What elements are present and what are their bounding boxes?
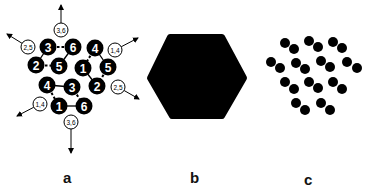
svg-text:3,6: 3,6: [56, 27, 65, 34]
dimer: [291, 98, 310, 115]
panel-label-c: c: [304, 171, 312, 188]
vector-badge: 2,5: [111, 80, 125, 94]
svg-text:4: 4: [44, 79, 51, 93]
svg-text:1,4: 1,4: [35, 101, 44, 108]
dipole-arrow: [7, 34, 22, 43]
dimer: [304, 77, 323, 93]
ring-node: 1: [51, 98, 68, 115]
ring-node: 6: [65, 39, 82, 56]
dimer: [342, 57, 362, 73]
svg-text:2: 2: [94, 80, 101, 94]
panel-a-ring-diagram: 3,62,51,42,51,43,6362541524316: [7, 5, 139, 153]
dimer: [316, 98, 335, 115]
svg-text:4: 4: [92, 42, 99, 56]
svg-text:2,5: 2,5: [113, 84, 122, 91]
dimer: [291, 58, 310, 74]
dipole-arrow: [121, 38, 138, 47]
dipole-arrow: [17, 107, 34, 116]
ring-node: 4: [39, 77, 56, 94]
ring-node: 2: [89, 78, 106, 95]
svg-text:3,6: 3,6: [66, 119, 75, 126]
ring-node: 6: [76, 98, 93, 115]
panel-b-hexagon: [150, 37, 244, 116]
panel-label-b: b: [190, 169, 199, 186]
ring-node: 3: [64, 79, 81, 96]
ring-node: 5: [51, 58, 68, 75]
vector-badge: 1,4: [108, 43, 122, 57]
dimer: [280, 77, 299, 94]
svg-text:3: 3: [45, 41, 52, 55]
svg-text:6: 6: [81, 100, 88, 114]
ring-node: 2: [28, 57, 45, 74]
dimer: [316, 56, 335, 72]
svg-text:6: 6: [70, 41, 77, 55]
vector-badge: 1,4: [33, 97, 47, 111]
figure-canvas: 3,62,51,42,51,43,6362541524316: [0, 0, 368, 192]
svg-text:1: 1: [56, 100, 63, 114]
ring-node: 4: [87, 40, 104, 57]
figure: 3,62,51,42,51,43,6362541524316 a b c: [0, 0, 368, 192]
dimer: [266, 57, 285, 73]
vector-badge: 3,6: [64, 115, 78, 129]
svg-text:5: 5: [56, 60, 63, 74]
vector-badge: 2,5: [21, 40, 35, 54]
dimer: [328, 77, 347, 94]
svg-text:5: 5: [105, 61, 112, 75]
dipole-arrow: [124, 90, 139, 99]
ring-node: 1: [75, 60, 92, 77]
svg-text:2: 2: [33, 59, 40, 73]
ring-node: 5: [100, 59, 117, 76]
dimer: [280, 38, 299, 54]
dimer: [304, 36, 323, 52]
svg-text:1: 1: [80, 62, 87, 76]
svg-text:3: 3: [69, 81, 76, 95]
vector-badge: 3,6: [54, 23, 68, 37]
ring-node: 3: [40, 39, 57, 56]
panel-c-dimer-array: [266, 36, 362, 115]
dimer: [328, 37, 347, 53]
svg-text:1,4: 1,4: [110, 47, 119, 54]
panel-label-a: a: [63, 169, 71, 186]
hexagon-shape: [150, 37, 244, 116]
svg-text:2,5: 2,5: [23, 44, 32, 51]
